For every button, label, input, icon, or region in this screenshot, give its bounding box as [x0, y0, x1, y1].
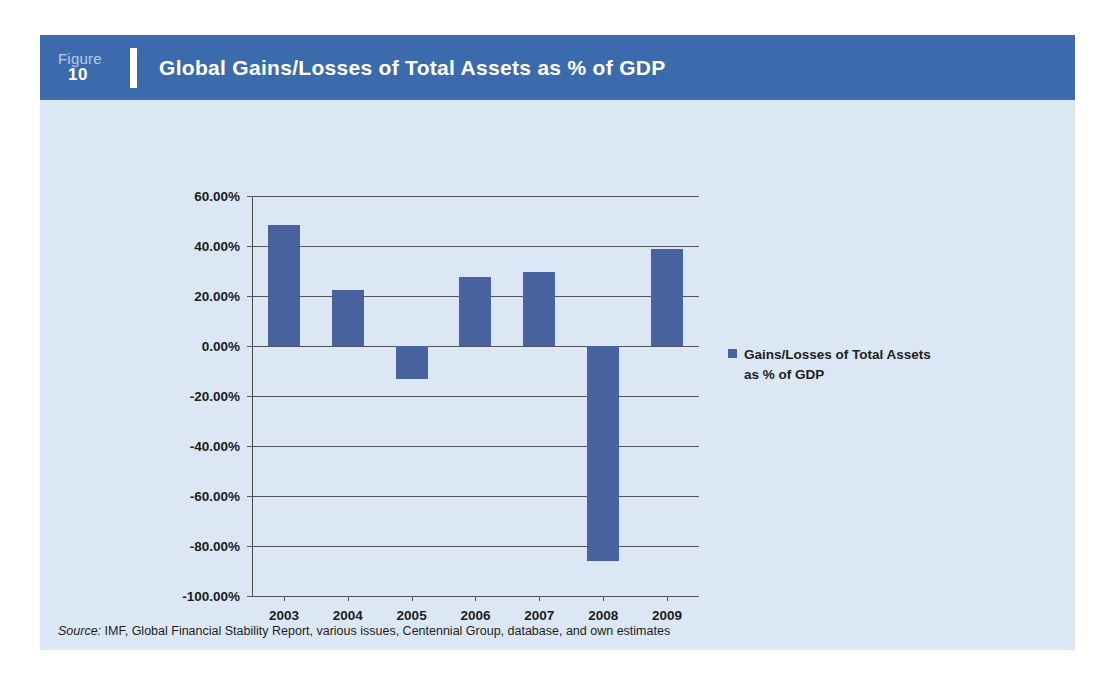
x-axis-label: 2004	[333, 608, 363, 623]
bar-group: 2008	[571, 196, 635, 596]
bar-group: 2006	[444, 196, 508, 596]
bar-group: 2003	[252, 196, 316, 596]
legend-swatch-icon	[728, 349, 737, 358]
x-axis-tick	[603, 596, 604, 601]
figure-panel: Figure 10 Global Gains/Losses of Total A…	[40, 35, 1075, 650]
source-label: Source:	[58, 624, 101, 638]
y-axis-label: 60.00%	[194, 189, 240, 204]
bar-group: 2009	[635, 196, 699, 596]
bar	[268, 225, 300, 346]
page: Figure 10 Global Gains/Losses of Total A…	[0, 0, 1113, 676]
figure-number: 10	[58, 66, 130, 84]
figure-number-block: Figure 10	[40, 51, 130, 85]
x-axis-tick	[284, 596, 285, 601]
x-axis-label: 2006	[460, 608, 490, 623]
header-divider	[130, 48, 137, 88]
bar	[523, 272, 555, 346]
x-axis-tick	[348, 596, 349, 601]
y-axis-tick	[247, 596, 252, 597]
source-note: Source: IMF, Global Financial Stability …	[58, 624, 670, 638]
y-axis-label: -20.00%	[190, 389, 240, 404]
bar-group: 2007	[507, 196, 571, 596]
figure-title: Global Gains/Losses of Total Assets as %…	[159, 56, 666, 80]
y-axis-label: -100.00%	[182, 589, 240, 604]
bar	[587, 346, 619, 561]
legend: Gains/Losses of Total Assets as % of GDP	[728, 345, 944, 384]
y-axis-label: -80.00%	[190, 539, 240, 554]
x-axis-tick	[539, 596, 540, 601]
y-axis-label: 40.00%	[194, 239, 240, 254]
bar-group: 2005	[380, 196, 444, 596]
y-axis-label: -40.00%	[190, 439, 240, 454]
bar	[651, 249, 683, 347]
bar	[332, 290, 364, 346]
chart-body: 60.00%40.00%20.00%0.00%-20.00%-40.00%-60…	[40, 100, 1075, 650]
bar-group: 2004	[316, 196, 380, 596]
figure-label-word: Figure	[58, 51, 130, 67]
figure-header: Figure 10 Global Gains/Losses of Total A…	[40, 35, 1075, 100]
x-axis-label: 2009	[652, 608, 682, 623]
x-axis-tick	[667, 596, 668, 601]
x-axis-label: 2003	[269, 608, 299, 623]
y-axis-label: 20.00%	[194, 289, 240, 304]
x-axis-label: 2005	[397, 608, 427, 623]
bar	[396, 346, 428, 379]
legend-label: Gains/Losses of Total Assets as % of GDP	[744, 345, 944, 384]
x-axis-tick	[475, 596, 476, 601]
plot-area: 60.00%40.00%20.00%0.00%-20.00%-40.00%-60…	[252, 196, 699, 596]
bar	[459, 277, 491, 346]
x-axis-label: 2007	[524, 608, 554, 623]
bar-series: 2003200420052006200720082009	[252, 196, 699, 596]
y-axis-label: 0.00%	[202, 339, 240, 354]
source-text: IMF, Global Financial Stability Report, …	[101, 624, 670, 638]
x-axis-label: 2008	[588, 608, 618, 623]
x-axis-tick	[412, 596, 413, 601]
y-axis-label: -60.00%	[190, 489, 240, 504]
